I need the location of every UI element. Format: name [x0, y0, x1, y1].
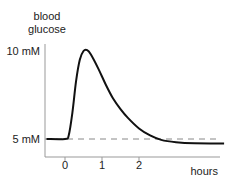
- x-ticks: 012: [62, 157, 142, 171]
- x-tick-label: 2: [136, 159, 142, 171]
- y-tick-label: 10 mM: [6, 45, 40, 57]
- y-axis-label-line-2: glucose: [28, 23, 66, 35]
- y-ticks: 10 mM5 mM: [6, 45, 40, 145]
- x-axis-label: hours: [190, 165, 218, 177]
- chart: blood glucose 10 mM5 mM 012 hours: [0, 0, 228, 181]
- y-axis-label-line-1: blood: [34, 10, 61, 22]
- y-tick-label: 5 mM: [13, 133, 41, 145]
- y-axis-label: blood glucose: [28, 10, 66, 35]
- glucose-curve: [47, 50, 225, 144]
- x-tick-label: 0: [62, 159, 68, 171]
- x-tick-label: 1: [99, 159, 105, 171]
